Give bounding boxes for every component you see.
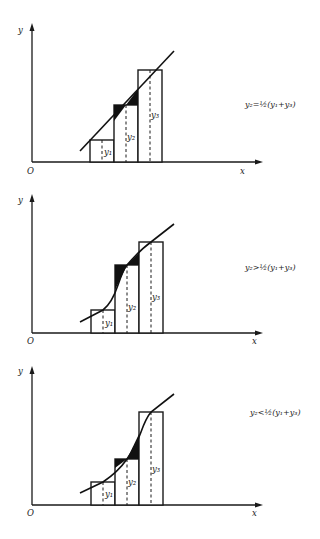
label-y1: y₁ — [104, 318, 113, 328]
x-axis-arrow-icon — [255, 160, 263, 165]
label-y1: y₁ — [103, 147, 112, 157]
label-y3: y₃ — [150, 110, 160, 120]
x-axis-label: x — [252, 508, 257, 518]
origin-label: O — [27, 336, 34, 346]
equation-less: y₂<½(y₁+y₃) — [249, 408, 301, 417]
y-axis-arrow-icon — [30, 194, 35, 202]
y-axis-arrow-icon — [30, 23, 35, 31]
y-axis-label: y — [17, 195, 23, 205]
y-axis — [30, 23, 35, 162]
x-axis-arrow-icon — [255, 331, 263, 336]
equation-equal: y₂=½(y₁+y₃) — [244, 100, 296, 109]
x-axis-label: x — [240, 166, 245, 176]
label-y2: y₂ — [126, 132, 136, 142]
origin-label: O — [27, 166, 34, 176]
y-axis-label: y — [17, 366, 23, 376]
panel-less: y x O y₁ y₂ y₃ y₂<½(y₁+y₃) — [17, 366, 301, 518]
label-y3: y₃ — [151, 464, 161, 474]
x-axis-arrow-icon — [255, 503, 263, 508]
label-y2: y₂ — [127, 302, 137, 312]
label-y3: y₃ — [151, 292, 161, 302]
origin-label: O — [27, 508, 34, 518]
panel-greater: y x O y₁ y₂ y₃ y₂>½(y₁+y₃) — [17, 194, 296, 346]
y-axis-label: y — [17, 25, 23, 35]
label-y1: y₁ — [104, 489, 113, 499]
y-axis-arrow-icon — [30, 366, 35, 374]
panel-equal: y x O y₁ y₂ y₃ y₂=½(y₁+y₃) — [17, 23, 296, 176]
equation-greater: y₂>½(y₁+y₃) — [244, 263, 296, 272]
y-axis — [30, 194, 35, 333]
figure-canvas: y x O y₁ y₂ y₃ y₂=½(y₁+y₃) y x O — [0, 0, 320, 539]
y-axis — [30, 366, 35, 505]
label-y2: y₂ — [127, 477, 137, 487]
x-axis-label: x — [252, 336, 257, 346]
